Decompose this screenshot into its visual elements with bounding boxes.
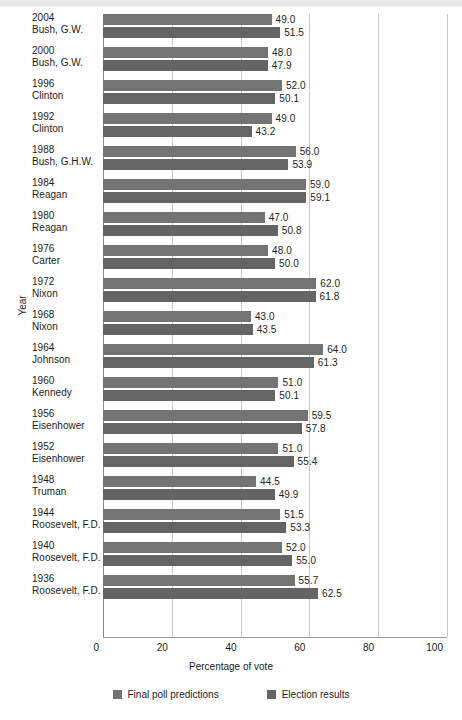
legend-swatch-poll-icon — [113, 690, 122, 699]
x-axis-line — [103, 637, 447, 638]
bar-value-label: 49.0 — [276, 113, 296, 124]
bar-value-label: 53.9 — [292, 159, 312, 170]
bar-result — [103, 27, 280, 38]
category-president: Bush, G.W. — [32, 24, 100, 36]
bar-value-label: 47.9 — [272, 60, 292, 71]
bar-group: 51.050.1 — [103, 377, 447, 410]
category-president: Johnson — [32, 354, 100, 366]
bar-group: 59.059.1 — [103, 179, 447, 212]
top-scan-band-edge — [0, 6, 462, 7]
bar-poll — [103, 377, 278, 388]
x-tick-20: 20 — [128, 641, 168, 654]
bar-value-label: 55.7 — [299, 575, 319, 586]
bar-value-label: 53.3 — [290, 522, 310, 533]
category-president: Bush, G.H.W. — [32, 156, 100, 168]
bar-value-label: 43.0 — [255, 311, 275, 322]
bar-result — [103, 555, 292, 566]
category-year: 1936 — [32, 573, 100, 585]
category-year: 1972 — [32, 276, 100, 288]
bar-value-label: 51.0 — [282, 443, 302, 454]
category-year: 1968 — [32, 309, 100, 321]
x-tick-100: 100 — [403, 641, 443, 654]
bar-group: 64.061.3 — [103, 344, 447, 377]
category-label: 2000Bush, G.W. — [32, 45, 100, 69]
category-year: 1964 — [32, 342, 100, 354]
bar-poll — [103, 344, 323, 355]
bar-poll — [103, 245, 268, 256]
category-president: Nixon — [32, 288, 100, 300]
plot-area: 49.051.548.047.952.050.149.043.256.053.9… — [103, 14, 447, 637]
bar-value-label: 61.3 — [318, 357, 338, 368]
bar-result — [103, 192, 306, 203]
x-tick-0: 0 — [59, 641, 99, 654]
category-year: 1948 — [32, 474, 100, 486]
bar-poll — [103, 146, 296, 157]
category-president: Bush, G.W. — [32, 57, 100, 69]
bar-poll — [103, 410, 308, 421]
bar-group: 43.043.5 — [103, 311, 447, 344]
bar-value-label: 44.5 — [260, 476, 280, 487]
bar-value-label: 52.0 — [286, 80, 306, 91]
category-label: 1952Eisenhower — [32, 441, 100, 465]
bar-group: 59.557.8 — [103, 410, 447, 443]
bar-group: 62.061.8 — [103, 278, 447, 311]
bar-value-label: 56.0 — [300, 146, 320, 157]
bar-value-label: 64.0 — [327, 344, 347, 355]
category-label: 1984Reagan — [32, 177, 100, 201]
category-label: 1960Kennedy — [32, 375, 100, 399]
y-axis-title: Year — [17, 276, 28, 336]
category-president: Eisenhower — [32, 420, 100, 432]
bar-value-label: 61.8 — [320, 291, 340, 302]
bar-result — [103, 588, 318, 599]
category-president: Kennedy — [32, 387, 100, 399]
bar-result — [103, 456, 294, 467]
bar-result — [103, 522, 286, 533]
bar-value-label: 43.5 — [257, 324, 277, 335]
legend-label-result: Election results — [282, 689, 350, 700]
legend-item-poll: Final poll predictions — [113, 689, 219, 700]
bar-result — [103, 489, 275, 500]
x-tick-40: 40 — [197, 641, 237, 654]
bar-value-label: 51.5 — [284, 509, 304, 520]
bar-result — [103, 159, 288, 170]
bar-group: 49.051.5 — [103, 14, 447, 47]
bar-value-label: 62.5 — [322, 588, 342, 599]
bar-value-label: 49.9 — [279, 489, 299, 500]
bar-group: 48.050.0 — [103, 245, 447, 278]
bar-group: 52.050.1 — [103, 80, 447, 113]
category-label: 1988Bush, G.H.W. — [32, 144, 100, 168]
bar-value-label: 59.5 — [312, 410, 332, 421]
bar-poll — [103, 179, 306, 190]
category-year: 1992 — [32, 111, 100, 123]
category-label: 1964Johnson — [32, 342, 100, 366]
chart-legend: Final poll predictions Election results — [0, 689, 462, 700]
bar-value-label: 59.1 — [310, 192, 330, 203]
category-label: 1980Reagan — [32, 210, 100, 234]
bar-value-label: 57.8 — [306, 423, 326, 434]
category-label: 1944Roosevelt, F.D. — [32, 507, 100, 531]
bar-poll — [103, 542, 282, 553]
category-label: 1976Carter — [32, 243, 100, 267]
bar-value-label: 50.0 — [279, 258, 299, 269]
bar-poll — [103, 47, 268, 58]
bar-poll — [103, 278, 316, 289]
category-label: 2004Bush, G.W. — [32, 12, 100, 36]
bar-poll — [103, 113, 272, 124]
category-label: 1972Nixon — [32, 276, 100, 300]
category-year: 1944 — [32, 507, 100, 519]
x-tick-60: 60 — [265, 641, 305, 654]
category-year: 1976 — [32, 243, 100, 255]
category-president: Roosevelt, F.D. — [32, 519, 100, 531]
bar-poll — [103, 509, 280, 520]
category-president: Clinton — [32, 123, 100, 135]
bar-result — [103, 423, 302, 434]
bar-value-label: 50.1 — [279, 93, 299, 104]
bar-value-label: 59.0 — [310, 179, 330, 190]
bar-result — [103, 60, 268, 71]
category-year: 2004 — [32, 12, 100, 24]
category-label: 1956Eisenhower — [32, 408, 100, 432]
category-year: 2000 — [32, 45, 100, 57]
bar-value-label: 47.0 — [269, 212, 289, 223]
bar-result — [103, 258, 275, 269]
bar-value-label: 51.0 — [282, 377, 302, 388]
